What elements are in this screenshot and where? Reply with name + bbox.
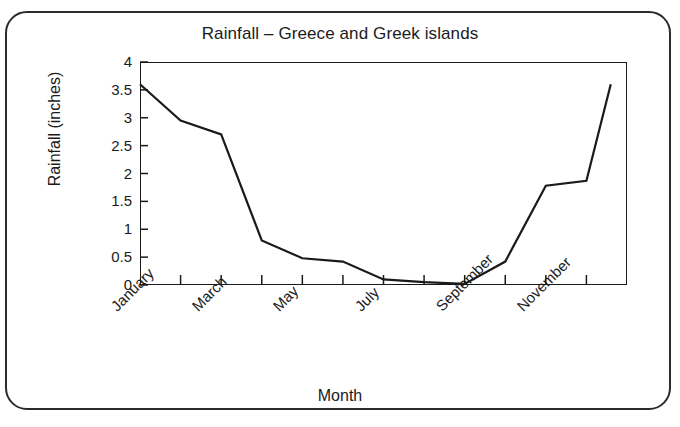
y-axis-label: Rainfall (inches) — [46, 29, 64, 229]
y-tick-label: 2.5 — [86, 138, 132, 153]
x-axis-label: Month — [0, 387, 680, 405]
y-tick-label: 3.5 — [86, 82, 132, 97]
y-tick-label: 0.5 — [86, 249, 132, 264]
y-tick-label: 2 — [86, 166, 132, 181]
plot-area — [140, 62, 627, 285]
y-tick-label: 3 — [86, 110, 132, 125]
y-tick-label: 1.5 — [86, 193, 132, 208]
chart-figure: Rainfall – Greece and Greek islands Rain… — [0, 0, 680, 427]
y-tick-label: 1 — [86, 221, 132, 236]
chart-title: Rainfall – Greece and Greek islands — [0, 24, 680, 44]
y-tick-label: 4 — [86, 54, 132, 69]
